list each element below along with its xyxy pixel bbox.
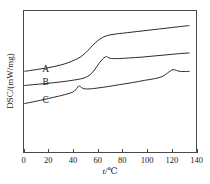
- x-axis-tick-labels: 020406080100120140: [21, 155, 203, 165]
- dsc-curve-c: [25, 70, 189, 104]
- x-axis-tick-label: 120: [165, 155, 178, 165]
- dsc-chart-figure: 020406080100120140 ABC t/℃ DSC/(mW/mg): [0, 0, 210, 184]
- frame-border: [24, 11, 197, 153]
- x-axis-tick-label: 40: [69, 155, 78, 165]
- y-axis-title: DSC/(mW/mg): [5, 53, 15, 109]
- x-axis-tick-label: 100: [141, 155, 154, 165]
- x-axis-ticks: [25, 149, 198, 153]
- plot-frame: [24, 11, 197, 153]
- x-axis-tick-label: 0: [21, 155, 25, 165]
- curve-group: [25, 26, 189, 104]
- curve-label-a: A: [42, 64, 49, 74]
- x-axis-tick-label: 80: [118, 155, 127, 165]
- x-axis-tick-label: 140: [190, 155, 203, 165]
- curve-label-group: ABC: [42, 64, 49, 105]
- dsc-curve-b: [25, 53, 189, 86]
- x-axis-tick-label: 60: [93, 155, 102, 165]
- dsc-curve-a: [25, 26, 189, 72]
- x-axis-title: t/℃: [102, 166, 117, 176]
- curve-label-c: C: [43, 95, 49, 105]
- curve-label-b: B: [43, 77, 49, 87]
- chart-canvas: 020406080100120140 ABC t/℃ DSC/(mW/mg): [0, 0, 210, 184]
- x-axis-tick-label: 20: [44, 155, 53, 165]
